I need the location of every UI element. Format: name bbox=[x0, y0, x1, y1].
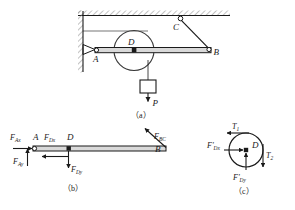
beam-b bbox=[33, 146, 166, 151]
label-force-F-Ay: FAy bbox=[12, 157, 24, 167]
caption-panel-c: （c） bbox=[234, 187, 254, 196]
hub-D bbox=[132, 48, 137, 53]
label-force-F-Ax: FAx bbox=[9, 133, 21, 143]
label-point-a-B: B bbox=[214, 47, 220, 57]
statics-figure: A B C D P （a） FAx bbox=[0, 0, 295, 210]
hanging-block bbox=[140, 60, 156, 102]
joint-B bbox=[207, 47, 211, 51]
label-force-T2: T2 bbox=[266, 151, 273, 161]
panel-c: T1 T2 F'Dx F'Dy D （c） bbox=[206, 122, 273, 196]
panel-a: A B C D P （a） bbox=[78, 11, 230, 121]
caption-panel-b: （b） bbox=[63, 184, 83, 193]
pin-support-A bbox=[83, 45, 95, 55]
label-force-F-BC: FBC bbox=[153, 132, 166, 142]
label-force-T1: T1 bbox=[232, 122, 239, 132]
label-point-b-B: B bbox=[155, 144, 161, 154]
panel-b: FAx A FAy FDx D FDy FBC B （b） bbox=[9, 129, 166, 194]
hatched-ceiling bbox=[78, 11, 230, 16]
joint-A bbox=[94, 48, 98, 52]
label-point-b-A: A bbox=[32, 132, 39, 142]
label-point-b-D: D bbox=[66, 132, 74, 142]
label-force-F-Dy: FDy bbox=[70, 165, 83, 175]
figure-root: A B C D P （a） FAx bbox=[0, 0, 295, 210]
label-force-F-Dx: FDx bbox=[43, 133, 56, 143]
caption-panel-a: （a） bbox=[131, 111, 151, 120]
cable-CB bbox=[178, 16, 208, 47]
label-force-Fp-Dx: F'Dx bbox=[206, 141, 221, 151]
label-force-Fp-Dy: F'Dy bbox=[232, 173, 247, 183]
label-point-a-A: A bbox=[92, 54, 99, 64]
hub-b-D bbox=[67, 146, 71, 150]
label-point-c-D: D bbox=[251, 140, 259, 150]
label-point-a-C: C bbox=[173, 22, 180, 32]
hub-c-D bbox=[244, 148, 248, 152]
label-load-P: P bbox=[152, 98, 159, 108]
label-point-a-D: D bbox=[127, 37, 135, 47]
hatched-wall bbox=[78, 11, 83, 73]
beam-AB bbox=[95, 48, 211, 53]
joint-b-A bbox=[32, 146, 36, 150]
